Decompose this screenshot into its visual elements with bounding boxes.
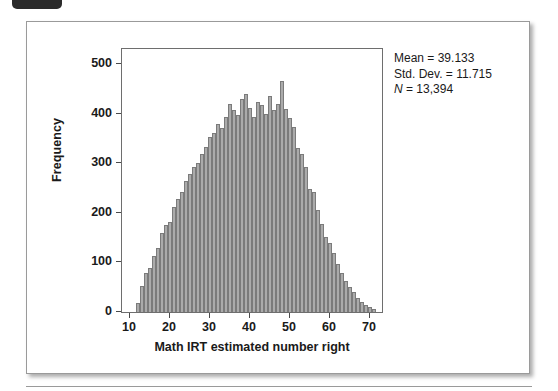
x-tick-mark (289, 313, 290, 318)
y-axis-tick: 500 (27, 63, 121, 64)
y-axis-tick: 300 (27, 162, 121, 163)
y-axis: 0100200300400500 (27, 22, 121, 373)
figure-number-badge (12, 0, 62, 9)
x-tick-mark (209, 313, 210, 318)
x-tick-label: 20 (162, 320, 176, 334)
figure-card: 0100200300400500 Frequency 1020304050607… (26, 21, 530, 374)
x-tick-mark (329, 313, 330, 318)
y-tick-label: 200 (91, 203, 112, 221)
histogram-bar (372, 309, 376, 312)
x-tick-label: 40 (242, 320, 256, 334)
x-tick-label: 10 (122, 320, 136, 334)
y-axis-tick: 0 (27, 311, 121, 312)
y-tick-label: 0 (105, 302, 112, 320)
y-tick-label: 500 (91, 54, 112, 72)
y-tick-label: 100 (91, 252, 112, 270)
x-tick-mark (249, 313, 250, 318)
histogram-bars (122, 49, 382, 312)
stat-n-symbol: N (394, 82, 403, 96)
x-tick-mark (169, 313, 170, 318)
stat-std-dev: Std. Dev. = 11.715 (394, 67, 492, 83)
stat-mean: Mean = 39.133 (394, 51, 492, 67)
stat-n: N = 13,394 (394, 82, 492, 98)
x-tick-label: 60 (322, 320, 336, 334)
x-tick-label: 70 (362, 320, 376, 334)
x-axis-title: Math IRT estimated number right (121, 340, 383, 354)
x-tick-label: 30 (202, 320, 216, 334)
y-axis-tick: 200 (27, 212, 121, 213)
y-tick-label: 400 (91, 104, 112, 122)
x-tick-label: 50 (282, 320, 296, 334)
plot-area (121, 48, 383, 313)
page-rule (26, 386, 532, 387)
stat-n-value: = 13,394 (403, 82, 453, 96)
y-axis-title: Frequency (50, 118, 64, 182)
y-axis-tick: 400 (27, 113, 121, 114)
x-tick-mark (129, 313, 130, 318)
y-tick-label: 300 (91, 153, 112, 171)
x-tick-mark (369, 313, 370, 318)
y-axis-tick: 100 (27, 261, 121, 262)
statistics-annotation: Mean = 39.133 Std. Dev. = 11.715 N = 13,… (394, 51, 492, 98)
